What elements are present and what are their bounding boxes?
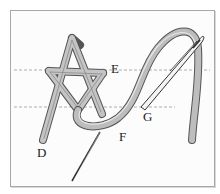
label-f: F (119, 130, 126, 143)
label-d: D (37, 146, 46, 159)
label-e: E (111, 62, 119, 75)
lower-needle-icon (72, 132, 100, 181)
label-g: G (143, 110, 152, 123)
stitch-illustration (0, 0, 220, 194)
